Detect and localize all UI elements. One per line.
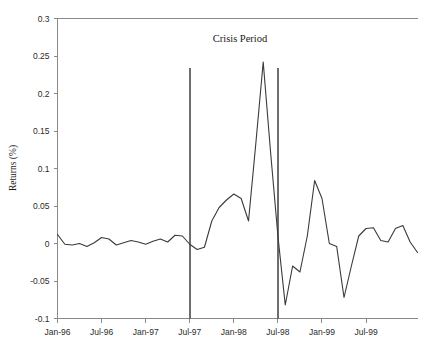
y-tick-label: 0.15 bbox=[33, 126, 50, 136]
y-tick-label: 0.05 bbox=[33, 201, 50, 211]
y-tick-label: 0.2 bbox=[38, 89, 50, 99]
y-axis-title: Returns (%) bbox=[8, 145, 19, 191]
y-tick-label: -0.1 bbox=[35, 314, 50, 324]
plot-frame bbox=[58, 19, 418, 319]
chart-canvas: Crisis Period Returns (%) 0.30.250.20.15… bbox=[0, 0, 440, 353]
x-tick-label: Jan-99 bbox=[309, 327, 335, 337]
series-group bbox=[58, 62, 418, 305]
x-tick-label: Jan-97 bbox=[133, 327, 159, 337]
y-tick-label: 0 bbox=[45, 239, 50, 249]
y-tick-label: 0.3 bbox=[38, 14, 50, 24]
x-tick-label: Jul-98 bbox=[266, 327, 289, 337]
x-tick-label: Jul-99 bbox=[354, 327, 377, 337]
y-tick-label: 0.25 bbox=[33, 51, 50, 61]
chart-title-group: Crisis Period bbox=[213, 33, 268, 44]
y-axis-ticks: 0.30.250.20.150.10.050-0.05-0.1 bbox=[30, 14, 57, 324]
y-tick-label: -0.05 bbox=[30, 276, 50, 286]
x-tick-label: Jul-96 bbox=[90, 327, 113, 337]
series-line-returns bbox=[58, 62, 418, 305]
axis-frame-path bbox=[58, 19, 418, 319]
x-tick-label: Jul-97 bbox=[178, 327, 201, 337]
chart-title: Crisis Period bbox=[213, 33, 268, 44]
x-tick-label: Jan-98 bbox=[221, 327, 247, 337]
y-tick-label: 0.1 bbox=[38, 164, 50, 174]
crisis-period-markers bbox=[190, 68, 278, 319]
x-axis-ticks: Jan-96Jul-96Jan-97Jul-97Jan-98Jul-98Jan-… bbox=[45, 319, 378, 337]
returns-chart: Crisis Period Returns (%) 0.30.250.20.15… bbox=[0, 0, 440, 353]
y-axis-title-group: Returns (%) bbox=[8, 145, 19, 191]
x-tick-label: Jan-96 bbox=[45, 327, 71, 337]
